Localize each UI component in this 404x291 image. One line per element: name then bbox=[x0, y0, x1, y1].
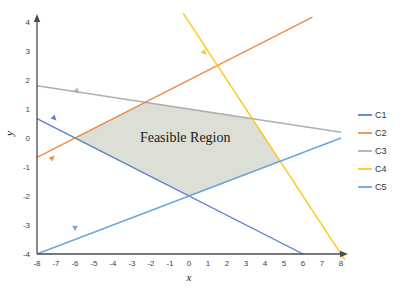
y-axis-arrow bbox=[34, 14, 40, 22]
y-tick-label: -2 bbox=[23, 192, 31, 201]
legend-label-C3: C3 bbox=[375, 146, 387, 156]
direction-arrow-C3 bbox=[73, 87, 81, 95]
legend-label-C1: C1 bbox=[375, 110, 387, 120]
x-tick-label: 8 bbox=[339, 259, 344, 268]
x-tick-label: -4 bbox=[109, 259, 117, 268]
x-tick-label: -2 bbox=[147, 259, 155, 268]
x-tick-label: 6 bbox=[301, 259, 306, 268]
direction-arrow-C2 bbox=[49, 154, 57, 162]
x-tick-label: 0 bbox=[187, 259, 192, 268]
feasible-region-label: Feasible Region bbox=[140, 130, 231, 145]
y-tick-label: 3 bbox=[26, 47, 31, 56]
legend-item-C3: C3 bbox=[358, 146, 387, 156]
x-tick-label: -8 bbox=[33, 259, 41, 268]
x-tick-label: -6 bbox=[71, 259, 79, 268]
x-tick-label: 5 bbox=[282, 259, 287, 268]
y-tick-label: -1 bbox=[23, 163, 31, 172]
feasible-region-chart: -8-7-6-5-4-3-2-1012345678 -4-3-2-101234 … bbox=[0, 0, 404, 291]
y-tick-label: -3 bbox=[23, 221, 31, 230]
x-axis-tick-labels: -8-7-6-5-4-3-2-1012345678 bbox=[33, 259, 343, 268]
legend-label-C2: C2 bbox=[375, 128, 387, 138]
x-tick-label: -1 bbox=[166, 259, 174, 268]
direction-arrow-C1 bbox=[51, 114, 59, 122]
x-axis-title: x bbox=[186, 271, 192, 283]
x-tick-label: 7 bbox=[320, 259, 325, 268]
y-tick-label: 1 bbox=[26, 105, 31, 114]
legend-item-C2: C2 bbox=[358, 128, 387, 138]
x-tick-label: 4 bbox=[263, 259, 268, 268]
x-axis-arrow bbox=[340, 251, 348, 257]
x-tick-label: -3 bbox=[128, 259, 136, 268]
y-tick-label: 4 bbox=[26, 18, 31, 27]
y-tick-label: -4 bbox=[23, 250, 31, 259]
chart-canvas: -8-7-6-5-4-3-2-1012345678 -4-3-2-101234 … bbox=[0, 0, 404, 291]
feasible-region-fill bbox=[75, 102, 280, 196]
x-tick-label: 3 bbox=[244, 259, 249, 268]
direction-arrow-C5 bbox=[72, 226, 78, 232]
y-tick-label: 2 bbox=[26, 76, 31, 85]
feasible-region-polygon bbox=[75, 102, 280, 196]
x-tick-label: 1 bbox=[206, 259, 211, 268]
x-tick-label: 2 bbox=[225, 259, 230, 268]
legend: C1C2C3C4C5 bbox=[358, 110, 387, 192]
legend-label-C5: C5 bbox=[375, 182, 387, 192]
y-axis-title: y bbox=[3, 131, 15, 137]
x-tick-label: -7 bbox=[52, 259, 60, 268]
legend-item-C1: C1 bbox=[358, 110, 387, 120]
legend-item-C5: C5 bbox=[358, 182, 387, 192]
x-tick-label: -5 bbox=[90, 259, 98, 268]
y-tick-label: 0 bbox=[26, 134, 31, 143]
legend-item-C4: C4 bbox=[358, 164, 387, 174]
legend-label-C4: C4 bbox=[375, 164, 387, 174]
y-axis-tick-labels: -4-3-2-101234 bbox=[23, 18, 31, 259]
